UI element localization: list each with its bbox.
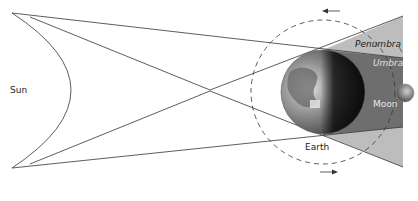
orbit-arrow-top-icon	[322, 9, 340, 14]
earth-label: Earth	[305, 142, 329, 152]
umbra-label: Umbra	[373, 58, 403, 68]
eclipse-diagram	[0, 0, 418, 201]
moon-label: Moon	[373, 99, 397, 109]
penumbra-label: Penumbra	[355, 39, 401, 49]
sun-label: Sun	[10, 85, 27, 95]
moon	[396, 84, 414, 102]
orbit-arrow-bottom-icon	[320, 170, 338, 175]
